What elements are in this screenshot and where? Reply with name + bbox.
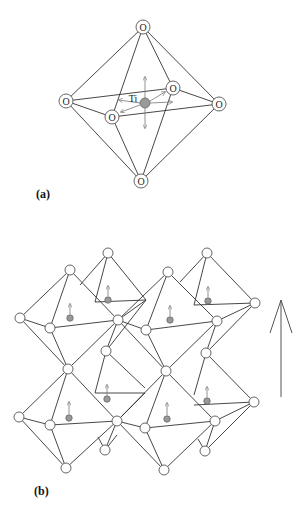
svg-text:O: O [169,83,176,94]
o-atom-front-left: O [105,110,119,124]
o-atom-left: O [59,94,73,108]
svg-text:O: O [215,99,222,110]
svg-text:O: O [139,22,146,33]
polarization-arrow [270,300,292,397]
o-atom-right: O [212,97,226,111]
o-atom-top: O [136,20,150,34]
octahedron-back-lower-right [194,353,254,451]
svg-text:O: O [137,176,144,187]
ti-label: Ti [129,93,138,104]
svg-text:O: O [108,112,115,123]
octahedra-network-b [14,248,292,475]
octahedron-a: Ti O O O O O O [59,20,226,188]
ti-atom [140,98,150,108]
o-atom-bottom: O [134,174,148,188]
o-atom-back-right: O [166,81,180,95]
octahedron-front-lower-right [117,371,215,470]
panel-label-b: (b) [34,484,49,499]
octahedron-back-upper-left [80,253,146,351]
octahedron-back-upper-right [180,253,255,353]
panel-label-a: (a) [36,187,50,202]
figure-canvas: Ti O O O O O O [0,0,295,513]
svg-text:O: O [62,96,69,107]
o-atom-nodes [14,248,260,475]
